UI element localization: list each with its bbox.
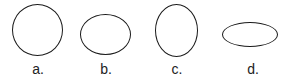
- label-a: a.: [18, 61, 58, 77]
- label-c: c.: [157, 61, 197, 77]
- label-d: d.: [233, 61, 273, 77]
- shape-a-circle: [12, 4, 63, 56]
- shape-c-tall-ellipse: [155, 4, 198, 57]
- shape-b-ellipse: [80, 14, 131, 55]
- shape-d-flat-ellipse: [222, 22, 278, 47]
- label-b: b.: [86, 61, 126, 77]
